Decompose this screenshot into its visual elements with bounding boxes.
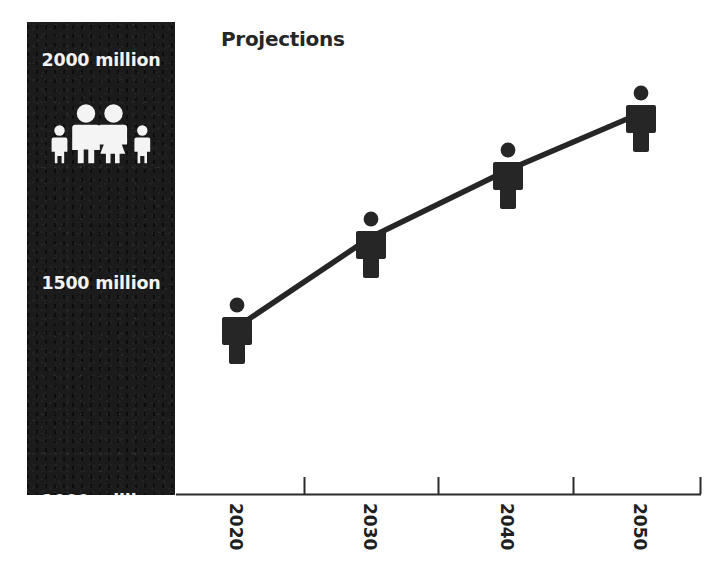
chart-title: Projections bbox=[221, 27, 345, 51]
x-axis-tick-label-2040: 2040 bbox=[497, 503, 517, 578]
x-axis-tick-label-2020: 2020 bbox=[226, 503, 246, 578]
data-point-marker-2040[interactable] bbox=[493, 143, 523, 209]
x-axis-ticks bbox=[305, 477, 701, 494]
data-point-marker-2020[interactable] bbox=[222, 298, 252, 364]
trend-line bbox=[237, 113, 641, 327]
data-point-marker-2030[interactable] bbox=[356, 212, 386, 278]
data-point-marker-2050[interactable] bbox=[626, 86, 656, 152]
y-axis-label-bottom: 1000 million bbox=[27, 491, 175, 495]
y-axis-label-middle: 1500 million bbox=[27, 273, 175, 293]
x-axis-tick-label-2050: 2050 bbox=[630, 503, 650, 578]
family-pictogram-icon bbox=[47, 100, 155, 172]
y-axis-label-top: 2000 million bbox=[27, 50, 175, 70]
y-axis-panel: 2000 million 1500 million 1000 million bbox=[27, 22, 175, 495]
projections-chart-figure: 2000 million 1500 million 1000 million bbox=[0, 0, 728, 578]
x-axis-tick-label-2030: 2030 bbox=[360, 503, 380, 578]
